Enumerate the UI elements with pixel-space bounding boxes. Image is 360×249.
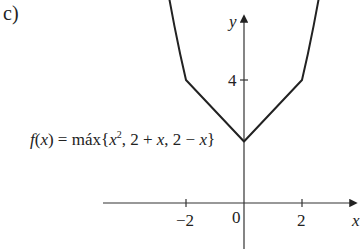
origin-label: 0 xyxy=(232,209,241,226)
function-formula: f(x) = máx{x2, 2 + x, 2 − x} xyxy=(30,130,215,148)
x-tick-label-neg2: −2 xyxy=(176,212,194,229)
x-tick-label-2: 2 xyxy=(297,212,306,229)
x-axis-label: x xyxy=(352,212,360,229)
y-axis-label: y xyxy=(229,13,237,30)
y-tick-label-4: 4 xyxy=(228,72,237,89)
